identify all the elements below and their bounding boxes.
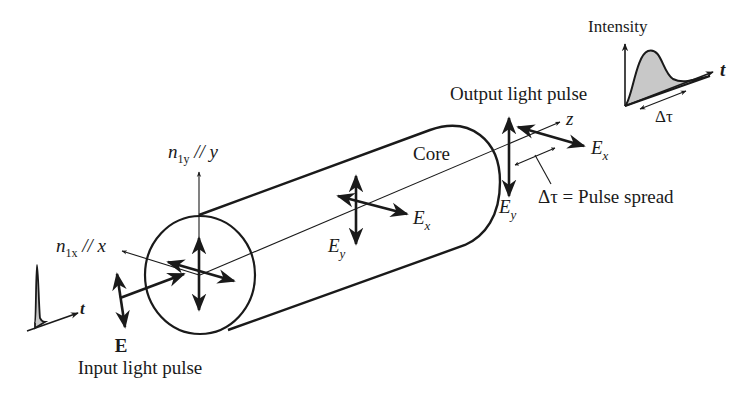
output-field-vectors <box>509 118 584 196</box>
input-t-label: t <box>80 299 86 318</box>
mid-field-vectors <box>338 176 407 244</box>
n1y-label: n1y // y <box>168 141 219 166</box>
output-intensity-graph: Intensity t Δτ <box>588 17 726 126</box>
pulse-spread-label: Δτ = Pulse spread <box>538 186 674 207</box>
input-pulse-graph: t <box>27 265 86 331</box>
n1x-label: n1x // x <box>56 235 107 260</box>
output-delta-tau-label: Δτ <box>655 107 673 126</box>
input-e-arrow <box>117 274 125 327</box>
n1x-axis <box>122 251 199 275</box>
mid-ey-label: Ey <box>327 235 346 261</box>
mid-ex-arrow <box>338 196 407 214</box>
output-ey-label: Ey <box>498 196 517 222</box>
core-label: Core <box>413 143 450 164</box>
output-ex-arrow <box>518 127 584 146</box>
output-ex-label: Ex <box>590 137 609 163</box>
input-pulse-label: Input light pulse <box>78 357 203 378</box>
input-e-label: E <box>115 335 128 356</box>
mid-ex-label: Ex <box>412 207 431 233</box>
pulse-spread-leader <box>535 155 551 184</box>
fiber-diagram: z n1y // y n1x // x E Input light pulse … <box>0 0 752 402</box>
intensity-label: Intensity <box>588 17 648 36</box>
output-pulse-label: Output light pulse <box>450 83 587 104</box>
cylinder-outline <box>199 126 500 330</box>
output-t-label: t <box>720 59 726 80</box>
pulse-spread-arrow <box>515 148 555 165</box>
input-beam-arrow <box>120 274 184 298</box>
z-label: z <box>565 108 574 129</box>
input-pulse-shape <box>35 265 45 328</box>
